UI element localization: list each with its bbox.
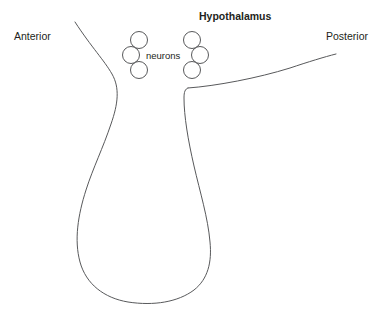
label-anterior: Anterior <box>14 31 51 42</box>
neuron-cluster-right <box>184 32 209 79</box>
neuron-circle <box>123 47 140 64</box>
hypothalamus-right-outline <box>188 54 336 88</box>
outline-group <box>75 22 336 304</box>
neuron-circle <box>184 32 201 49</box>
neuron-cluster-left <box>123 32 148 79</box>
diagram-canvas <box>0 0 381 321</box>
neuron-circle <box>131 32 148 49</box>
neuron-circle <box>184 62 201 79</box>
label-posterior: Posterior <box>326 31 368 42</box>
neuron-circle <box>131 62 148 79</box>
label-hypothalamus: Hypothalamus <box>199 11 271 22</box>
neuron-circle <box>192 47 209 64</box>
label-neurons: neurons <box>146 51 180 61</box>
hypothalamus-left-outline <box>75 22 210 304</box>
hypothalamus-diagram: Anterior Posterior Hypothalamus neurons <box>0 0 381 321</box>
